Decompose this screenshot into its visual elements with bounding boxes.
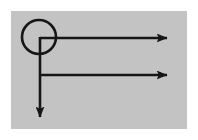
diagram-canvas	[0, 0, 198, 140]
diagram-figure	[0, 0, 198, 140]
figure-strokes	[22, 20, 167, 117]
